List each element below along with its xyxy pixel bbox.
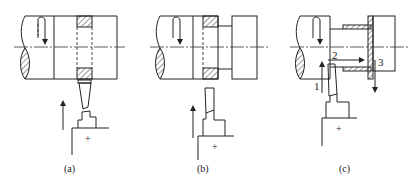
tool-post-mark-a: + [85,133,91,144]
workpiece-a [21,16,118,79]
break-section-hatch-c [296,48,305,79]
bore-bottom-hatch [343,67,371,71]
bore-top-hatch [343,25,371,29]
machining-diagram: + (a) + [0,0,418,192]
caption-b: (b) [197,163,209,175]
rotation-arrow-icon-b [173,17,180,42]
step-1-label: 1 [314,80,320,92]
groove-bottom-hatch [77,68,92,79]
caption-c: (c) [339,163,350,175]
groove-top-hatch [77,16,92,27]
break-section-hatch [21,48,30,79]
break-section-hatch-b [156,48,165,79]
step-3-label: 3 [378,56,384,68]
panel-a: + (a) [14,16,125,175]
groove-bottom-hatch-b [203,68,218,79]
panel-b: + (b) [150,16,270,175]
rotation-arrow-icon-c [313,17,320,42]
tool-post-mark-b: + [212,141,218,152]
rotation-arrow-icon [38,17,45,42]
cutting-tool-c: + [322,64,357,146]
cutting-tool-a: + [72,80,109,155]
groove-top-hatch-b [203,16,218,27]
cutting-tool-b: + [198,88,234,160]
panel-c: 1 2 3 + (c) [290,16,408,175]
tool-post-mark-c: + [336,123,342,134]
step-2-label: 2 [332,49,338,61]
caption-a: (a) [64,163,75,175]
workpiece-b [156,16,258,79]
workpiece-c [296,16,396,79]
face-hatch [368,16,373,79]
